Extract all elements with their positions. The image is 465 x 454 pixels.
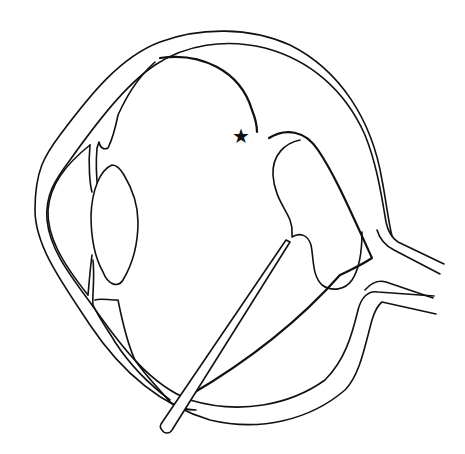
lens xyxy=(91,165,138,284)
eye-diagram-svg: ★ xyxy=(0,0,465,454)
iris-lower xyxy=(88,255,92,295)
detached-retina-upper-flap xyxy=(160,57,257,132)
optic-nerve-upper xyxy=(377,230,440,274)
iris-upper xyxy=(89,145,92,192)
retinal-break-marker-icon: ★ xyxy=(232,124,250,148)
ciliary-body-lower-edge xyxy=(93,260,170,400)
eye-diagram: ★ xyxy=(0,0,465,454)
subretinal-fluid-region xyxy=(273,140,362,289)
